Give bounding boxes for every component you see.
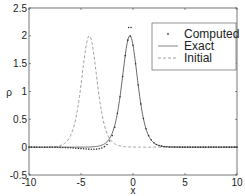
computed-marker — [132, 44, 134, 46]
computed-marker — [75, 147, 77, 149]
computed-marker — [176, 146, 178, 148]
y-tick-label: 0.5 — [13, 114, 27, 125]
computed-marker — [137, 84, 139, 86]
computed-marker — [161, 145, 163, 147]
computed-marker — [39, 146, 41, 148]
computed-marker — [221, 146, 223, 148]
computed-marker — [124, 55, 126, 57]
computed-marker — [80, 148, 82, 150]
computed-marker — [143, 118, 145, 120]
computed-marker — [78, 148, 80, 150]
computed-marker — [41, 146, 43, 148]
legend-computed-marker-icon — [167, 33, 169, 35]
computed-marker — [114, 127, 116, 129]
computed-marker — [197, 146, 199, 148]
computed-marker — [215, 146, 217, 148]
computed-marker — [88, 148, 90, 150]
computed-marker — [145, 128, 147, 130]
computed-marker — [184, 146, 186, 148]
computed-marker — [101, 147, 103, 149]
computed-marker — [234, 146, 236, 148]
x-tick-label: 5 — [182, 177, 188, 188]
y-axis-label: ρ — [6, 87, 12, 98]
x-tick-label: -10 — [22, 177, 37, 188]
computed-marker — [226, 146, 228, 148]
computed-marker — [182, 146, 184, 148]
computed-marker — [57, 147, 59, 149]
y-tick-label: 1.5 — [13, 58, 27, 69]
computed-marker — [158, 145, 160, 147]
computed-marker — [119, 96, 121, 98]
computed-marker — [195, 146, 197, 148]
computed-marker — [140, 103, 142, 105]
computed-marker — [231, 146, 233, 148]
computed-marker — [49, 146, 51, 148]
computed-marker — [127, 39, 129, 41]
computed-marker — [192, 146, 194, 148]
legend: Computed Exact Initial — [152, 23, 239, 70]
computed-marker — [130, 27, 132, 29]
computed-marker — [169, 146, 171, 148]
computed-marker — [171, 146, 173, 148]
computed-marker — [98, 148, 100, 150]
computed-marker — [236, 146, 238, 148]
computed-marker — [213, 146, 215, 148]
computed-marker — [135, 63, 137, 65]
computed-marker — [187, 146, 189, 148]
computed-marker — [111, 135, 113, 137]
x-tick-label: -5 — [77, 177, 86, 188]
computed-marker — [150, 139, 152, 141]
computed-marker — [83, 148, 85, 150]
computed-marker — [202, 146, 204, 148]
computed-marker — [54, 146, 56, 148]
computed-marker — [46, 146, 48, 148]
computed-marker — [122, 76, 124, 78]
computed-marker — [109, 140, 111, 142]
y-tick-label: 2 — [21, 30, 27, 41]
computed-marker — [70, 147, 72, 149]
computed-marker — [59, 147, 61, 149]
computed-marker — [44, 146, 46, 148]
computed-marker — [228, 146, 230, 148]
computed-marker — [156, 144, 158, 146]
computed-marker — [91, 148, 93, 150]
computed-marker — [210, 146, 212, 148]
computed-marker — [153, 142, 155, 144]
computed-marker — [28, 146, 30, 148]
computed-marker — [106, 144, 108, 146]
computed-marker — [117, 112, 119, 114]
x-tick-label: 10 — [231, 177, 243, 188]
computed-marker — [72, 147, 74, 149]
computed-marker — [33, 146, 35, 148]
computed-marker — [205, 146, 207, 148]
computed-marker — [189, 146, 191, 148]
computed-marker — [62, 147, 64, 149]
computed-marker — [166, 146, 168, 148]
computed-marker — [174, 146, 176, 148]
computed-marker — [179, 146, 181, 148]
y-tick-label: 1 — [21, 86, 27, 97]
computed-marker — [148, 135, 150, 137]
y-tick-label: 2.5 — [13, 3, 27, 14]
y-tick-labels: -0.500.511.522.5 — [10, 3, 28, 181]
computed-marker — [52, 146, 54, 148]
y-tick-label: 0 — [21, 142, 27, 153]
computed-marker — [223, 146, 225, 148]
legend-initial-label: Initial — [184, 51, 212, 65]
computed-marker — [31, 146, 33, 148]
computed-marker — [200, 146, 202, 148]
x-axis-label: x — [131, 185, 136, 196]
computed-marker — [85, 148, 87, 150]
computed-marker — [208, 146, 210, 148]
computed-marker — [218, 146, 220, 148]
soliton-chart: -0.500.511.522.5 -10-50510 ρ x Computed … — [0, 0, 245, 196]
computed-marker — [65, 147, 67, 149]
computed-marker — [104, 146, 106, 148]
computed-marker — [67, 147, 69, 149]
computed-marker — [130, 35, 132, 37]
computed-marker — [93, 148, 95, 150]
computed-marker — [128, 27, 130, 29]
computed-marker — [163, 146, 165, 148]
computed-marker — [96, 148, 98, 150]
computed-marker — [36, 146, 38, 148]
